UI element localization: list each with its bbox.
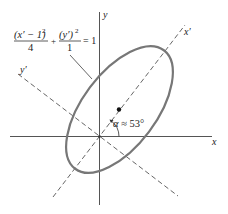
ellipse-equation: (x′ − 1) 2 4 + (y′) 2 1 = 1	[14, 27, 96, 53]
angle-label: α ≈ 53°	[113, 118, 144, 129]
svg-text:4: 4	[28, 42, 34, 53]
svg-text:1: 1	[67, 42, 72, 53]
y-axis-label: y	[102, 9, 108, 20]
svg-text:= 1: = 1	[83, 35, 96, 46]
svg-text:(y′): (y′)	[59, 29, 73, 41]
y-prime-axis-label: y′	[19, 64, 27, 75]
x-prime-axis-label: x′	[183, 26, 191, 37]
ellipse-center-point	[117, 107, 121, 111]
svg-text:+: +	[51, 36, 56, 46]
ellipse-diagram: (x′ − 1) 2 4 + (y′) 2 1 = 1 y x x′ y′ α …	[0, 0, 228, 214]
x-axis-label: x	[211, 136, 217, 147]
svg-text:2: 2	[75, 27, 79, 35]
svg-text:2: 2	[42, 27, 46, 35]
y-prime-axis	[18, 74, 178, 196]
equation-leader-line	[70, 55, 92, 79]
origin-point	[98, 135, 101, 138]
